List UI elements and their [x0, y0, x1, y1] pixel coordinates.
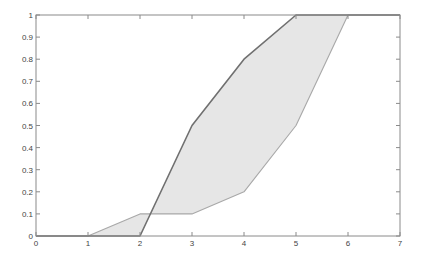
y-tick-label: 0.9 [22, 33, 34, 42]
x-tick-label: 6 [346, 239, 351, 248]
y-tick-label: 0.8 [22, 55, 34, 64]
y-tick-label: 0.5 [22, 122, 34, 131]
y-tick-label: 0.1 [22, 210, 34, 219]
y-tick-label: 0.3 [22, 166, 34, 175]
x-tick-label: 2 [138, 239, 143, 248]
y-tick-label: 1 [29, 11, 34, 20]
y-tick-label: 0.6 [22, 99, 34, 108]
y-tick-label: 0.7 [22, 77, 34, 86]
x-tick-label: 4 [242, 239, 247, 248]
x-tick-label: 5 [294, 239, 299, 248]
x-tick-label: 7 [398, 239, 403, 248]
x-tick-label: 3 [190, 239, 195, 248]
y-tick-label: 0.4 [22, 144, 34, 153]
x-tick-label: 1 [86, 239, 91, 248]
y-tick-label: 0.2 [22, 188, 34, 197]
y-tick-label: 0 [29, 232, 34, 241]
x-tick-label: 0 [34, 239, 39, 248]
chart: 01234567 00.10.20.30.40.50.60.70.80.91 [0, 0, 421, 257]
